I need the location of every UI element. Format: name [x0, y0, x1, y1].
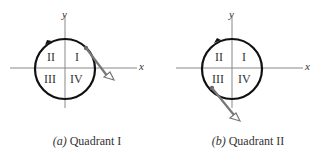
x-axis-label: x [305, 60, 310, 72]
figure-b-caption: (b) Quadrant II [169, 134, 317, 149]
caption-letter: (a) [53, 134, 67, 148]
quadrant-label-iii: III [44, 72, 56, 87]
quadrant-label-iii: III [212, 72, 224, 87]
y-axis-label: y [62, 8, 67, 20]
tangent-line [86, 48, 108, 77]
caption-letter: (b) [212, 134, 226, 148]
figure-b: y x II I III IV (b) Quadrant II [159, 0, 317, 154]
quadrant-label-iv: IV [238, 72, 251, 87]
quadrant-label-i: I [75, 50, 79, 65]
tangent-arrowhead-icon [230, 113, 240, 121]
tangent-line [212, 88, 234, 115]
figure-b-diagram [159, 0, 317, 130]
y-axis-label: y [229, 8, 234, 20]
x-axis-label: x [139, 60, 144, 72]
caption-text: Quadrant I [70, 134, 122, 148]
figure-a: y x II I III IV (a) Quadrant I [0, 0, 158, 154]
quadrant-label-ii: II [215, 50, 223, 65]
figure-a-diagram [0, 0, 158, 130]
quadrant-label-i: I [242, 50, 246, 65]
figure-a-caption: (a) Quadrant I [8, 134, 166, 149]
quadrant-label-ii: II [47, 50, 55, 65]
caption-text: Quadrant II [229, 134, 285, 148]
quadrant-label-iv: IV [70, 72, 83, 87]
